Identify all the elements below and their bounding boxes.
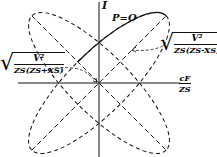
left-formula: √ V² ZS(ZS+XS): [0, 52, 65, 75]
upper-right-numerator: V²: [174, 33, 217, 45]
upper-right-formula: √ V² ZS(ZS-XS): [160, 32, 217, 55]
left-numerator: V²: [14, 53, 64, 65]
curve-label: P=O: [112, 13, 137, 23]
upper-right-denominator: ZS(ZS-XS): [174, 45, 217, 55]
arrow-upper: [132, 46, 163, 51]
sqrt-icon: √: [0, 52, 14, 74]
left-denominator: ZS(ZS+XS): [14, 65, 64, 75]
sqrt-icon: √: [160, 32, 174, 54]
horizontal-axis-label: cF ZS: [178, 74, 192, 94]
vertical-axis-label: I: [102, 0, 107, 11]
